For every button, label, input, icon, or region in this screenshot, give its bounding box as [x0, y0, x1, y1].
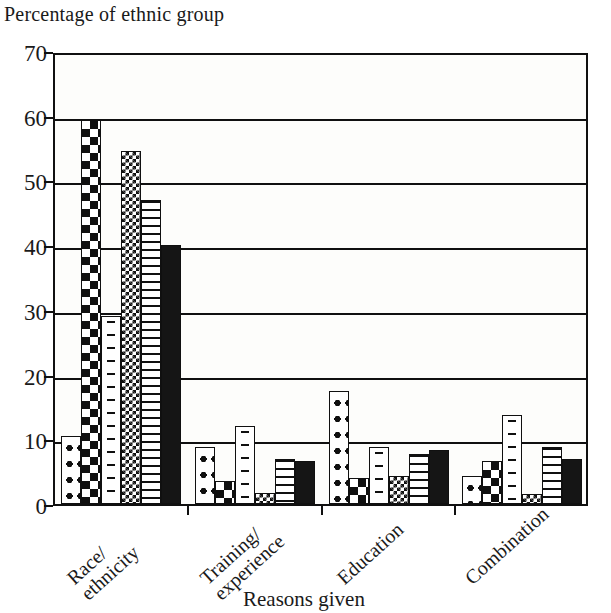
x-axis-title: Reasons given [243, 588, 365, 610]
bar [255, 493, 275, 504]
bar [542, 447, 562, 504]
y-axis-tick [44, 181, 53, 183]
y-axis-tick [44, 311, 53, 313]
bar [562, 459, 582, 504]
x-axis-category-label: Combination [461, 503, 553, 588]
y-axis-tick-labels: 010203040506070 [0, 0, 47, 613]
bar [275, 459, 295, 504]
bar [522, 494, 542, 504]
bar [141, 200, 161, 504]
bar [61, 436, 81, 504]
bar [389, 476, 409, 504]
bar [121, 151, 141, 504]
y-axis-tick [44, 246, 53, 248]
chart-root: Percentage of ethnic group 0102030405060… [0, 0, 611, 613]
x-axis-tick [321, 506, 323, 515]
x-axis-category-label-line: Education [333, 519, 407, 589]
bar [409, 454, 429, 504]
gridline [55, 119, 586, 121]
bar [81, 120, 101, 504]
y-axis-tick-label: 0 [0, 495, 47, 518]
y-axis-tick-label: 60 [0, 106, 47, 129]
y-axis-tick-label: 40 [0, 236, 47, 259]
y-axis-tick-label: 10 [0, 430, 47, 453]
bar [235, 426, 255, 504]
y-axis-tick [44, 440, 53, 442]
y-axis-tick-label: 20 [0, 365, 47, 388]
bar [369, 447, 389, 504]
plot-area [53, 53, 588, 506]
y-axis-tick [44, 52, 53, 54]
bar [215, 481, 235, 504]
bar [101, 316, 121, 504]
x-axis-tick [454, 506, 456, 515]
bar [462, 476, 482, 504]
x-axis-category-label: Race/ethnicity [63, 526, 143, 604]
bar [429, 450, 449, 504]
bar [161, 245, 181, 504]
bar [502, 415, 522, 504]
y-axis-tick [44, 376, 53, 378]
y-axis-tick-label: 30 [0, 300, 47, 323]
bar [195, 447, 215, 504]
x-axis-tick [187, 506, 189, 515]
x-axis-category-label: Education [333, 519, 407, 589]
bar [295, 461, 315, 504]
y-axis-tick [44, 117, 53, 119]
y-axis-tick-label: 70 [0, 42, 47, 65]
bar [329, 391, 349, 504]
bar [349, 478, 369, 504]
y-axis-tick [44, 505, 53, 507]
bar [482, 461, 502, 504]
x-axis-category-label-line: Combination [461, 503, 553, 588]
y-axis-tick-label: 50 [0, 171, 47, 194]
